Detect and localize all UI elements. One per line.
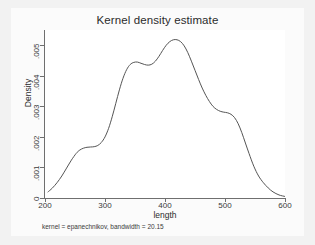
chart-title: Kernel density estimate [0,14,315,26]
y-tick-mark [40,45,44,46]
y-tick-mark [40,167,44,168]
density-curve [48,40,285,197]
density-curve-svg [45,30,285,198]
y-tick-mark [40,76,44,77]
x-tick-label: 200 [25,201,65,210]
y-tick-label: .002 [32,135,41,165]
x-tick-label: 400 [145,201,185,210]
y-tick-mark [40,106,44,107]
y-axis-title: Density [23,79,33,107]
y-tick-mark [40,137,44,138]
x-tick-label: 600 [265,201,305,210]
y-axis-line [44,30,45,199]
x-axis-title: length [45,210,285,220]
plot-area [45,30,285,198]
figure-background: Kernel density estimate 0.001.002.003.00… [0,0,315,245]
x-tick-label: 500 [205,201,245,210]
y-tick-label: .005 [32,44,41,74]
x-tick-label: 300 [85,201,125,210]
y-tick-mark [40,198,44,199]
y-tick-label: .003 [32,105,41,135]
y-tick-label: .001 [32,166,41,196]
chart-note: kernel = epanechnikov, bandwidth = 20.15 [42,223,164,230]
